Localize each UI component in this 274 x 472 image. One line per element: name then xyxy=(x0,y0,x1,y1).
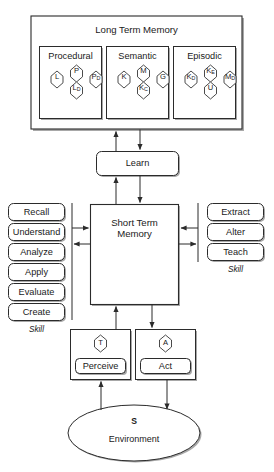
diagram-vector-layer xyxy=(0,0,274,472)
learn-box xyxy=(97,152,179,176)
perceive-label-box xyxy=(76,359,126,374)
diagram-canvas: Long Term Memory Procedural Semantic Epi… xyxy=(0,0,274,472)
right-skill-boxes xyxy=(208,204,266,263)
skill-box-recall xyxy=(9,204,65,221)
skill-box-apply xyxy=(9,264,65,281)
act-label-box xyxy=(141,359,191,374)
environment-ellipse xyxy=(68,405,200,461)
skill-box-analyze xyxy=(9,244,65,261)
skill-box-create xyxy=(9,304,65,321)
left-skill-boxes xyxy=(9,204,67,323)
stm-box xyxy=(91,205,179,305)
skill-box-extract xyxy=(208,204,264,221)
skill-box-alter xyxy=(208,224,264,241)
skill-box-evaluate xyxy=(9,284,65,301)
skill-box-teach xyxy=(208,244,264,261)
skill-box-understand xyxy=(9,224,65,241)
